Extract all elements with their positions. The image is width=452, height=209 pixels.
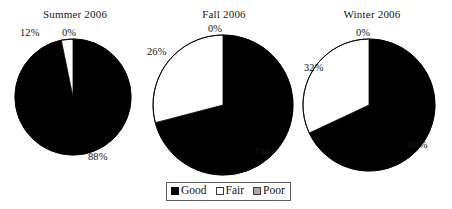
legend-swatch-poor-icon [253,187,261,195]
legend-label-fair: Fair [226,185,245,197]
pie-summer-svg [15,39,131,155]
pie-summer [15,39,131,155]
pie-label-good-winter: 68% [408,139,428,150]
legend-item-poor[interactable]: Poor [253,185,285,197]
legend-label-good: Good [181,185,207,197]
pie-label-good-summer: 88% [88,151,108,162]
pie-chart-figure: Summer 2006 12% 0% 88% Fall 2006 [0,0,452,209]
legend-swatch-fair-icon [216,187,224,195]
pie-label-fair-summer: 12% [20,27,40,38]
chart-panel-winter: Winter 2006 0% 32% 68% [298,0,452,178]
chart-panel-fall: Fall 2006 0% 26% 74% [150,0,298,178]
legend-item-fair[interactable]: Fair [216,185,245,197]
pie-winter-svg [303,39,435,171]
chart-title-summer: Summer 2006 [0,8,150,20]
pie-label-poor-winter: 0% [356,27,370,38]
chart-legend: Good Fair Poor [166,182,291,201]
legend-label-poor: Poor [263,185,285,197]
pie-label-fair-fall: 26% [147,46,167,57]
pie-label-fair-winter: 32% [304,62,324,73]
chart-title-winter: Winter 2006 [298,8,446,20]
pie-label-poor-fall: 0% [208,23,222,34]
pie-label-good-fall: 74% [254,146,274,157]
legend-swatch-good-icon [171,187,179,195]
chart-title-fall: Fall 2006 [150,8,298,20]
chart-panel-summer: Summer 2006 12% 0% 88% [0,0,150,178]
legend-item-good[interactable]: Good [171,185,207,197]
pie-label-poor-summer: 0% [62,27,76,38]
pie-winter [303,39,435,171]
